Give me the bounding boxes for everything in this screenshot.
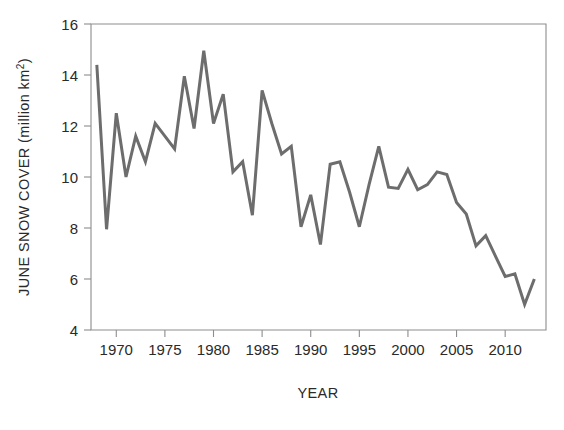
line-chart-canvas: 197019751980198519901995200020052010 468…	[0, 0, 564, 430]
y-tick-label-8: 8	[70, 220, 78, 237]
x-tick-label-2000: 2000	[391, 341, 424, 358]
x-tick-label-1985: 1985	[245, 341, 278, 358]
chart-figure: 197019751980198519901995200020052010 468…	[0, 0, 564, 430]
x-tick-label-1975: 1975	[148, 341, 181, 358]
y-tick-label-12: 12	[61, 118, 78, 135]
x-tick-label-1980: 1980	[197, 341, 230, 358]
y-axis-title: JUNE SNOW COVER (million km2)	[15, 58, 32, 296]
x-tick-label-1990: 1990	[294, 341, 327, 358]
x-tick-label-2010: 2010	[488, 341, 521, 358]
y-axis-title-main: JUNE SNOW COVER (million km	[16, 69, 32, 296]
x-tick-label-2005: 2005	[440, 341, 473, 358]
y-tick-label-6: 6	[70, 271, 78, 288]
y-axis-title-tail: )	[16, 58, 32, 63]
y-tick-label-14: 14	[61, 67, 78, 84]
y-tick-label-10: 10	[61, 169, 78, 186]
x-axis-tick-labels: 197019751980198519901995200020052010	[100, 341, 522, 358]
y-tick-label-4: 4	[70, 322, 78, 339]
y-tick-label-16: 16	[61, 16, 78, 33]
x-tick-label-1995: 1995	[343, 341, 376, 358]
x-axis-title: YEAR	[297, 385, 338, 401]
chart-background	[0, 0, 564, 430]
x-tick-label-1970: 1970	[100, 341, 133, 358]
